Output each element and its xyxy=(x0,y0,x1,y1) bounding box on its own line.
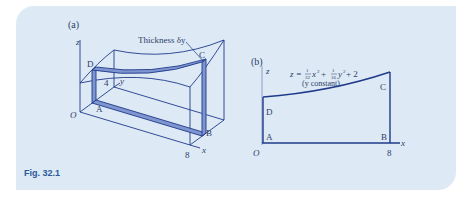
point-b-b: B xyxy=(381,132,387,142)
svg-text:y: y xyxy=(337,69,342,79)
x-tick-a: 8 xyxy=(185,150,190,160)
x-label-b: x xyxy=(400,138,405,148)
point-d-a: D xyxy=(87,59,94,69)
point-a-a: A xyxy=(96,104,103,114)
svg-text:+: + xyxy=(321,69,326,79)
y-tick-a: 4 xyxy=(104,78,109,88)
figure-caption: Fig. 32.1 xyxy=(24,168,60,178)
svg-text:x: x xyxy=(311,69,316,79)
strip-base xyxy=(92,100,206,136)
point-c-a: C xyxy=(199,50,205,60)
strip-top xyxy=(92,59,206,74)
y-label-a: y xyxy=(119,76,124,86)
point-a-b: A xyxy=(266,132,273,142)
equation: z = 1 32 x 2 + 1 16 y 2 + 2 (y constant) xyxy=(289,68,358,88)
strip-right xyxy=(202,59,206,136)
thickness-label: Thickness δy xyxy=(138,35,186,45)
z-label-a: z xyxy=(75,37,80,47)
panel-b-label: (b) xyxy=(251,56,263,68)
svg-text:1: 1 xyxy=(332,68,335,73)
point-b-a: B xyxy=(206,128,212,138)
svg-text:+ 2: + 2 xyxy=(346,69,358,79)
panel-a-label: (a) xyxy=(68,19,79,31)
svg-text:2: 2 xyxy=(317,69,320,74)
svg-text:z =: z = xyxy=(289,69,302,79)
point-c-b: C xyxy=(380,82,386,92)
strip-left xyxy=(92,67,96,103)
z-label-b: z xyxy=(265,66,270,76)
figure-diagrams: (a) z Thickness δy D C 4 y A O B 8 x (b)… xyxy=(0,0,472,203)
origin-a: O xyxy=(70,110,77,120)
x-label-a: x xyxy=(201,145,206,155)
equation-note: (y constant) xyxy=(302,79,340,88)
svg-text:1: 1 xyxy=(306,68,309,73)
origin-b: O xyxy=(253,148,260,158)
x-tick-b: 8 xyxy=(387,148,392,158)
point-d-b: D xyxy=(266,107,273,117)
